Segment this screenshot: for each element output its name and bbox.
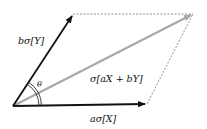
sum-vector-arrow (13, 15, 191, 106)
by-vector-arrow (13, 16, 72, 106)
sum-vector-label: σ[aX + bY] (90, 73, 143, 84)
ax-vector-arrow (13, 104, 145, 106)
by-vector-label: bσ[Y] (18, 35, 45, 46)
vector-diagram: bσ[Y] σ[aX + bY] aσ[X] θ (0, 0, 207, 129)
ax-vector-label: aσ[X] (90, 113, 117, 124)
angle-theta-label: θ (37, 80, 42, 89)
dashed-right-edge (147, 14, 193, 104)
